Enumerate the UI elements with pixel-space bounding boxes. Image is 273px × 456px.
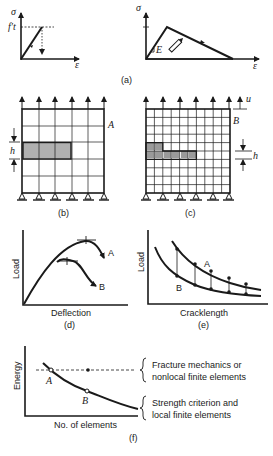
curve-b-label: B [99,282,105,292]
lower-brace [140,396,146,420]
u-label: u [246,93,251,104]
h-label: h [253,150,258,161]
curve-b [155,247,261,296]
legend-lower-line2: local finite elements [152,410,232,420]
curve-a-label: A [204,259,210,269]
curve-a [172,241,261,290]
panel-e-load-cracklength: A B Cracklength Load [136,230,268,318]
direction-arrow-icon [200,40,205,43]
legend-lower-line1: Strength criterion and [152,398,238,408]
legend-upper-line2: nonlocal finite elements [152,372,247,382]
y-axis-label: Load [11,259,21,279]
caption-d: (d) [64,320,75,330]
crack-band [23,143,71,158]
caption-a: (a) [121,75,132,85]
point-a-label: A [45,375,53,386]
point-a-marker [49,368,53,372]
supports [17,193,109,200]
curve-b-label: B [176,283,182,293]
h-dimension [235,139,252,171]
loading-line [21,27,42,59]
caption-e: (e) [198,320,209,330]
panel-d-load-deflection: A B Deflection Load [11,230,128,318]
panel-c-fine-mesh: u [141,93,258,200]
x-axis-label: Cracklength [180,308,228,318]
legend-upper-line1: Fracture mechanics or [152,360,242,370]
y-axis-label: Load [136,252,146,272]
y-axis-label: σ [11,6,17,17]
x-axis-label: ε [75,59,79,70]
data-points [175,247,248,296]
axes [23,230,128,305]
strength-label: f′t [8,21,16,32]
curve-a [24,241,104,304]
panel-a-left-stress-strain: σ ε f′t [8,6,79,70]
x-axis-label: Deflection [51,308,91,318]
point-b-label: B [82,395,88,406]
curve-b [57,259,96,286]
point-b-label: B [233,115,239,126]
point-a-label: A [107,119,115,130]
load-arrows [146,97,229,109]
x-axis-label: ε [253,60,257,71]
panel-f-energy-elements: A B No. of elements Energy Fracture mech… [12,346,247,430]
load-arrows [22,97,104,109]
panel-a-right-stress-strain: E σ ε [136,2,259,71]
modulus-label: E [155,44,162,55]
caption-f: (f) [129,433,138,443]
supports [141,193,234,200]
pencil-icon [169,37,185,53]
panel-b-coarse-mesh: h A [9,97,115,200]
fracture-mechanics-figure: σ ε f′t E σ ε (a) [0,0,273,456]
curve-a-label: A [108,248,114,258]
caption-b: (b) [58,208,69,218]
y-axis-label: σ [136,2,142,13]
x-axis-label: No. of elements [54,420,118,430]
dashed-line-point [86,368,90,372]
upper-brace [140,358,146,382]
h-label: h [10,145,15,156]
y-axis-label: Energy [12,361,22,390]
caption-c: (c) [185,208,196,218]
point-b-marker [85,389,89,393]
